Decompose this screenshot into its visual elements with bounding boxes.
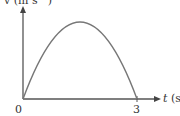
y-axis-arrow-icon <box>20 6 26 13</box>
velocity-time-chart <box>0 0 180 116</box>
x-axis-label: t (s) <box>163 93 180 104</box>
y-axis-label: v (m s⁻¹) <box>4 0 52 6</box>
origin-label: 0 <box>15 104 22 115</box>
velocity-curve <box>23 22 137 99</box>
x-axis-unit: (s) <box>171 92 180 105</box>
x-axis-var: t <box>163 92 167 105</box>
x-axis-arrow-icon <box>154 96 161 102</box>
x-tick-3-label: 3 <box>133 104 140 115</box>
